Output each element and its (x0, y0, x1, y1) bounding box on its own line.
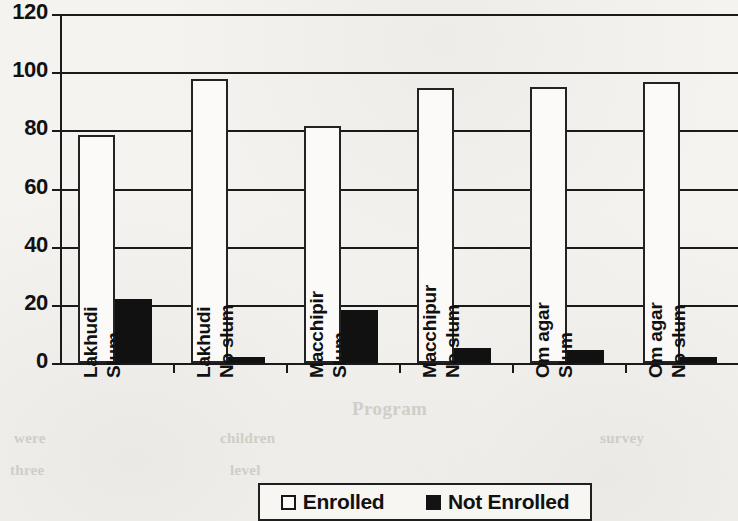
open-square-icon (281, 495, 296, 510)
x-axis-category-label: No slum (442, 304, 464, 378)
x-axis-category-label: No slum (668, 304, 690, 378)
x-axis-category-label: Macchipur (419, 285, 441, 378)
y-axis-tick-label: 0 (0, 348, 48, 374)
x-axis-category-label: No slum (216, 304, 238, 378)
x-axis-tick (286, 363, 288, 373)
legend-label: Not Enrolled (448, 490, 569, 514)
y-axis-tick-label: 40 (0, 232, 48, 258)
x-axis-category-label: Om agar (532, 302, 554, 378)
x-axis-category-label: Slum (103, 332, 125, 378)
y-axis-tick (52, 363, 61, 365)
gridline (60, 14, 738, 16)
gridline (60, 189, 738, 191)
y-axis-tick (52, 72, 61, 74)
bar-chart: 020406080100120 LakhudiSlumLakhudiNo slu… (0, 0, 738, 521)
y-axis-tick-label: 100 (0, 57, 48, 83)
gridline (60, 247, 738, 249)
y-axis-tick (52, 247, 61, 249)
x-axis-category-label: Slum (555, 332, 577, 378)
y-axis-tick-label: 80 (0, 115, 48, 141)
legend-label: Enrolled (303, 490, 385, 514)
gridline (60, 305, 738, 307)
y-axis-tick (52, 130, 61, 132)
gridline (60, 72, 738, 74)
filled-square-icon (426, 495, 441, 510)
y-axis-tick-label: 120 (0, 0, 48, 25)
y-axis-tick-label: 20 (0, 290, 48, 316)
x-axis-category-label: Lakhudi (193, 307, 215, 378)
x-axis-category-label: Slum (329, 332, 351, 378)
gridline (60, 130, 738, 132)
chart-legend: EnrolledNot Enrolled (258, 483, 592, 521)
legend-entry[interactable]: Not Enrolled (426, 490, 569, 514)
y-axis-tick (52, 189, 61, 191)
y-axis-tick (52, 14, 61, 16)
x-axis-category-label: Macchipir (306, 291, 328, 378)
x-axis-tick (625, 363, 627, 373)
scanned-page-background: Program children level were three survey… (0, 0, 738, 521)
x-axis-tick (399, 363, 401, 373)
y-axis-tick-label: 60 (0, 174, 48, 200)
y-axis-tick (52, 305, 61, 307)
x-axis-tick (512, 363, 514, 373)
x-axis-category-label: Lakhudi (80, 307, 102, 378)
legend-entry[interactable]: Enrolled (281, 490, 385, 514)
x-axis-category-label: Om agar (645, 302, 667, 378)
x-axis-tick (173, 363, 175, 373)
